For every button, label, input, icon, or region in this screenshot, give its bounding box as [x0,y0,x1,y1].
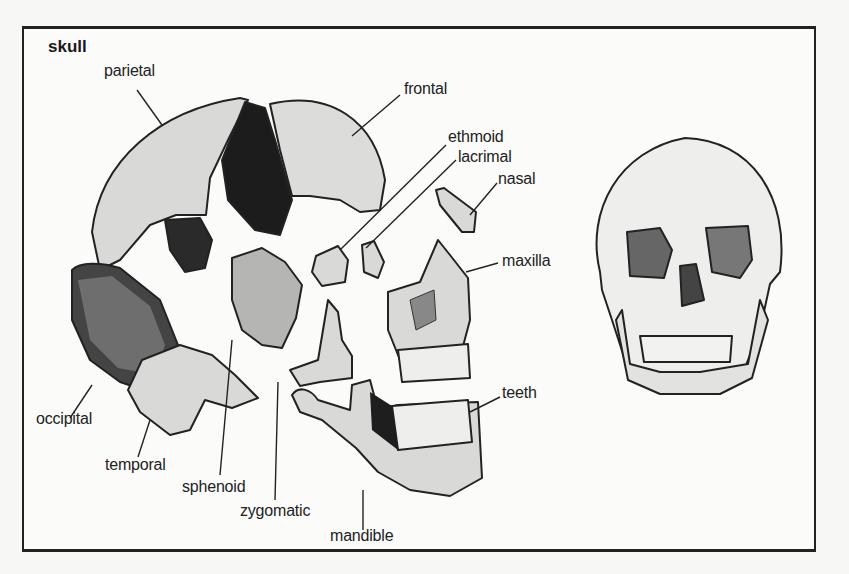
label-mandible: mandible [330,527,393,545]
upper-teeth [398,344,470,382]
lower-teeth [392,400,472,450]
label-parietal: parietal [104,62,155,80]
label-frontal: frontal [404,80,447,98]
label-maxilla: maxilla [502,252,550,270]
squama-dark [165,218,212,272]
right-orbit [706,226,752,278]
anterior-teeth [640,336,732,362]
label-zygomatic: zygomatic [240,502,310,520]
label-sphenoid: sphenoid [182,478,245,496]
label-occipital: occipital [36,410,92,428]
label-lacrimal: lacrimal [458,148,512,166]
lacrimal-bone [362,241,384,278]
nasal-bone [436,188,476,232]
label-temporal: temporal [105,456,166,474]
temporal-bone [128,345,258,435]
ethmoid-bone [312,246,348,286]
label-teeth: teeth [502,384,537,402]
label-nasal: nasal [498,170,535,188]
zygomatic-bone [290,300,352,386]
label-ethmoid: ethmoid [448,128,504,146]
sphenoid-bone [232,248,302,348]
